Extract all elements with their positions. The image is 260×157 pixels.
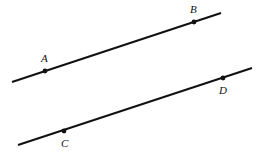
point-b [192, 20, 197, 25]
label-d: D [218, 84, 227, 96]
point-d [221, 76, 226, 81]
diagram-svg: A B C D [0, 0, 260, 157]
label-b: B [190, 3, 197, 15]
point-c [62, 129, 67, 134]
label-c: C [61, 137, 69, 149]
label-a: A [40, 52, 48, 64]
line-cd [18, 68, 252, 145]
geometry-diagram: A B C D [0, 0, 260, 157]
point-a [43, 69, 48, 74]
